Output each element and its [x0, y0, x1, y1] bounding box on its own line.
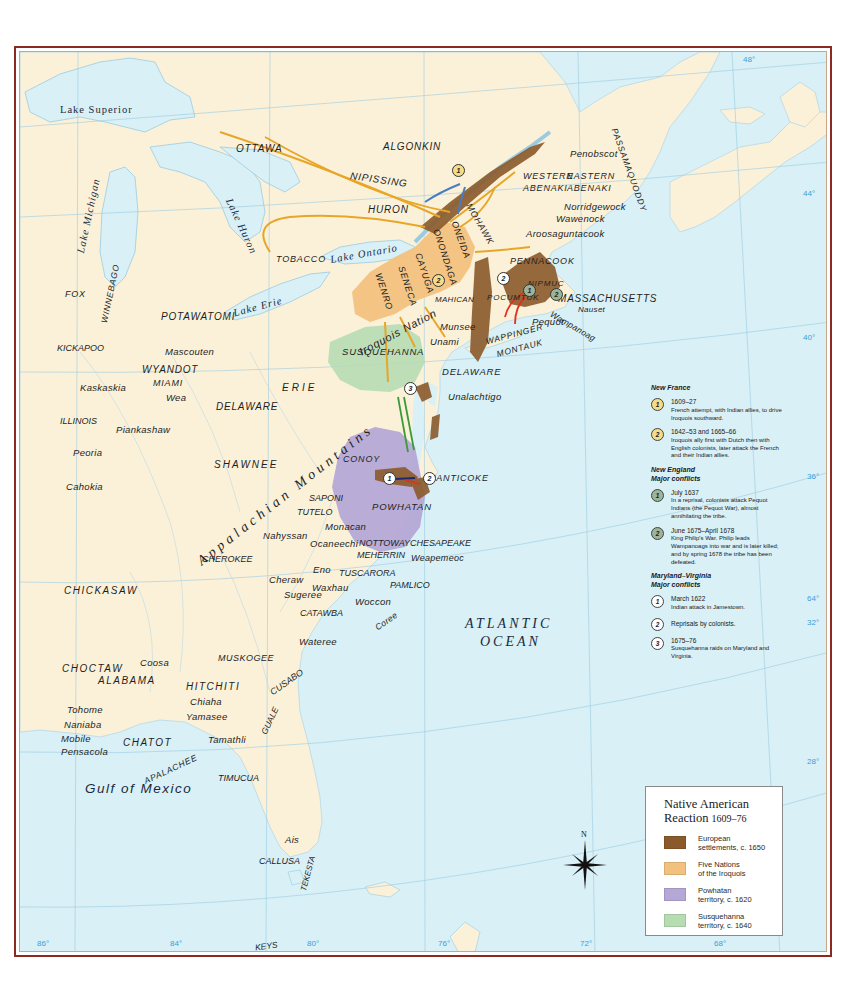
- tribe-woccon: Woccon: [355, 597, 391, 607]
- coord-lon-76: 76°: [438, 939, 450, 948]
- tribe-nanticoke: NANTICOKE: [429, 474, 489, 483]
- coord-lon-80: 80°: [307, 939, 319, 948]
- note-new-england-2: 2 June 1675–April 1678King Philip's War.…: [651, 527, 786, 567]
- tribe-tamathli: Tamathli: [208, 735, 246, 745]
- note-text: Susquehanna raids on Maryland and Virgin…: [671, 645, 786, 661]
- marker-maryland-virginia-1: 1: [383, 472, 396, 485]
- tribe-huron: HURON: [368, 205, 409, 215]
- tribe-saponi: SAPONI: [309, 494, 343, 503]
- marker-maryland-virginia-2: 2: [423, 472, 436, 485]
- note-new-france-1: 1 1609–27French attempt, with Indian all…: [651, 398, 786, 422]
- legend-title-line-2: Reaction: [664, 811, 708, 825]
- tribe-coosa: Coosa: [140, 658, 169, 668]
- coord-lon-84: 84°: [170, 939, 182, 948]
- tribe-delaware-west: DELAWARE: [216, 402, 278, 412]
- tribe-muskogee: MUSKOGEE: [218, 654, 274, 663]
- tribe-tuscarora: TUSCARORA: [339, 569, 396, 578]
- note-marker: 1: [651, 398, 664, 411]
- tribe-shawnee: SHAWNEE: [214, 460, 278, 470]
- tribe-powhatan: POWHATAN: [372, 502, 432, 512]
- heading-line: Maryland–Virginia: [651, 572, 786, 580]
- tribe-penobscot: Penobscot: [570, 149, 618, 159]
- tribe-illinois: ILLINOIS: [60, 417, 97, 426]
- compass-rose: N: [562, 828, 608, 898]
- tribe-ottawa: OTTAWA: [236, 144, 282, 154]
- marker-new-england-2: 2: [550, 288, 563, 301]
- legend-years: 1609–76: [712, 813, 747, 824]
- note-text: Reprisals by colonists.: [671, 620, 736, 628]
- note-new-france-2: 2 1642–53 and 1665–66Iroquois ally first…: [651, 428, 786, 460]
- tribe-algonkin: ALGONKIN: [383, 142, 441, 152]
- notes-new-england-heading: New EnglandMajor conflicts: [651, 466, 786, 483]
- tribe-tohome: Tohome: [67, 705, 103, 715]
- tribe-eastern-abenaki-2: ABENAKI: [567, 184, 612, 193]
- legend-item-european: Europeansettlements, c. 1650: [664, 834, 782, 852]
- note-text: French attempt, with Indian allies, to d…: [671, 407, 786, 423]
- tribe-weapemeoc: Weapemeoc: [411, 554, 464, 563]
- tribe-norridgewock: Norridgewock: [564, 202, 626, 212]
- marker-new-france-1: 1: [452, 164, 465, 177]
- tribe-alabama: ALABAMA: [98, 676, 156, 686]
- tribe-mobile: Mobile: [61, 734, 91, 744]
- note-text: Iroquois ally first with Dutch then with…: [671, 437, 786, 460]
- tribe-kickapoo: KICKAPOO: [57, 344, 104, 353]
- note-marker: 1: [651, 489, 664, 502]
- tribe-timucua: TIMUCUA: [218, 774, 259, 783]
- tribe-delaware-east: DELAWARE: [442, 367, 501, 377]
- legend-title-line-1: Native American: [664, 797, 782, 811]
- tribe-wea: Wea: [166, 393, 186, 403]
- tribe-yamasee: Yamasee: [186, 712, 228, 722]
- tribe-eastern-abenaki-1: EASTERN: [567, 172, 615, 181]
- coord-lat-36: 36°: [807, 472, 819, 481]
- tribe-wyandot: WYANDOT: [142, 365, 198, 375]
- note-new-england-1: 1 July 1637In a reprisal, colonists atta…: [651, 489, 786, 521]
- note-text: In a reprisal, colonists attack Pequot I…: [671, 497, 786, 520]
- note-marker: 1: [651, 595, 664, 608]
- tribe-ocaneechi: Ocaneechi: [310, 539, 358, 549]
- tribe-mahican: MAHICAN: [435, 296, 474, 304]
- legend-swatch-iroquois: [664, 862, 686, 875]
- tribe-naniaba: Naniaba: [64, 720, 102, 730]
- notes-maryland-virginia-heading: Maryland–VirginiaMajor conflicts: [651, 572, 786, 589]
- note-marker: 3: [651, 637, 664, 650]
- tribe-wateree: Wateree: [299, 637, 337, 647]
- coord-lon-72: 72°: [580, 939, 592, 948]
- legend-item-susquehanna: Susquehannaterritory, c. 1640: [664, 912, 782, 930]
- tribe-western-abenaki-2: ABENAKI: [523, 184, 568, 193]
- tribe-waxhau: Waxhau: [312, 583, 348, 593]
- note-marker: 2: [651, 618, 664, 631]
- tribe-nahyssan: Nahyssan: [263, 531, 308, 541]
- tribe-miami: MIAMI: [153, 379, 183, 388]
- tribe-chesapeake: CHESAPEAKE: [410, 539, 471, 548]
- legend-swatch-powhatan: [664, 888, 686, 901]
- note-date: March 1622: [671, 595, 745, 603]
- legend-title: Native American Reaction 1609–76: [664, 797, 782, 826]
- atlantic-label-2: OCEAN: [480, 635, 541, 649]
- coord-lon-86: 86°: [37, 939, 49, 948]
- tribe-tutelo: TUTELO: [297, 508, 333, 517]
- legend-label: territory, c. 1620: [698, 895, 752, 904]
- maritimes: [670, 112, 827, 232]
- tribe-munsee: Munsee: [440, 322, 476, 332]
- gulf-of-mexico-label: Gulf of Mexico: [85, 782, 192, 796]
- svg-text:N: N: [581, 830, 587, 839]
- note-text: Indian attack in Jamestown.: [671, 604, 745, 612]
- bahamas: [450, 922, 480, 952]
- conflict-notes: New France 1 1609–27French attempt, with…: [651, 384, 786, 667]
- tribe-nauset: Nauset: [578, 306, 605, 314]
- legend-label: European: [698, 834, 765, 843]
- tribe-aroosaguntacook: Aroosaguntacook: [526, 229, 604, 239]
- lake-superior-label: Lake Superior: [60, 105, 133, 116]
- tribe-unalachtigo: Unalachtigo: [448, 392, 501, 402]
- notes-new-france-heading: New France: [651, 384, 786, 392]
- marker-new-england-1: 1: [523, 284, 536, 297]
- note-date: July 1637: [671, 489, 786, 497]
- coord-lat-28: 28°: [807, 757, 819, 766]
- legend-swatch-susquehanna: [664, 914, 686, 927]
- tribe-pensacola: Pensacola: [61, 747, 108, 757]
- tribe-massachusetts: MASSACHUSETTS: [558, 294, 657, 304]
- note-date: 1609–27: [671, 398, 786, 406]
- tribe-unami: Unami: [430, 337, 459, 347]
- compass-icon: N: [562, 828, 608, 894]
- coord-lat-64: 64°: [807, 594, 819, 603]
